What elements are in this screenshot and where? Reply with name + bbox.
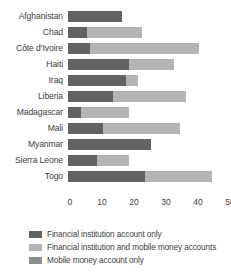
bar-segment[interactable] [68, 27, 87, 38]
category-label: Togo [0, 171, 66, 181]
bar-segment[interactable] [68, 43, 90, 54]
category-label: Mali [0, 123, 66, 133]
stacked-bar-chart: AfghanistanChadCôte d’IvoireHaitiIraqLib… [0, 0, 231, 275]
stacked-bar[interactable] [68, 123, 180, 134]
legend-label: Financial institution account only [47, 230, 161, 240]
bar-row: Chad [0, 24, 231, 40]
stacked-bar[interactable] [68, 155, 129, 166]
x-tick-label: 30 [161, 196, 171, 208]
bar-track [66, 104, 231, 120]
bar-segment[interactable] [68, 155, 97, 166]
bar-row: Afghanistan [0, 8, 231, 24]
bar-segment[interactable] [68, 123, 103, 134]
legend-swatch-icon [29, 231, 42, 238]
bar-row: Myanmar [0, 136, 231, 152]
category-label: Afghanistan [0, 11, 66, 21]
bar-segment[interactable] [68, 11, 122, 22]
category-label: Sierra Leone [0, 155, 66, 165]
bar-segment[interactable] [68, 91, 113, 102]
legend-swatch-icon [29, 244, 42, 251]
bar-track [66, 40, 231, 56]
legend-item[interactable]: Mobile money account only [29, 254, 229, 267]
category-label: Madagascar [0, 107, 66, 117]
bar-segment[interactable] [87, 27, 141, 38]
x-tick-label: 10 [97, 196, 107, 208]
bar-segment[interactable] [81, 107, 129, 118]
x-tick-label: 0 [68, 196, 73, 208]
category-label: Chad [0, 27, 66, 37]
stacked-bar[interactable] [68, 27, 142, 38]
legend-item[interactable]: Financial institution account only [29, 228, 229, 241]
bar-row: Liberia [0, 88, 231, 104]
bar-segment[interactable] [126, 75, 139, 86]
category-label: Myanmar [0, 139, 66, 149]
stacked-bar[interactable] [68, 171, 212, 182]
bar-track [66, 24, 231, 40]
bar-track [66, 152, 231, 168]
category-label: Iraq [0, 75, 66, 85]
bar-track [66, 72, 231, 88]
stacked-bar[interactable] [68, 107, 129, 118]
x-tick-label: 50 [225, 196, 231, 208]
legend-label: Mobile money account only [47, 256, 144, 266]
stacked-bar[interactable] [68, 11, 122, 22]
stacked-bar[interactable] [68, 75, 138, 86]
bar-row: Madagascar [0, 104, 231, 120]
bar-row: Haiti [0, 56, 231, 72]
bar-row: Mali [0, 120, 231, 136]
bar-segment[interactable] [68, 107, 81, 118]
bar-track [66, 168, 231, 184]
stacked-bar[interactable] [68, 43, 199, 54]
bar-segment[interactable] [145, 171, 212, 182]
bar-segment[interactable] [103, 123, 180, 134]
bar-row: Iraq [0, 72, 231, 88]
legend-item[interactable]: Financial institution and mobile money a… [29, 241, 229, 254]
bar-row: Togo [0, 168, 231, 184]
bar-segment[interactable] [68, 59, 129, 70]
bar-segment[interactable] [97, 155, 129, 166]
bar-segment[interactable] [129, 59, 174, 70]
bar-track [66, 8, 231, 24]
bar-segment[interactable] [90, 43, 199, 54]
bar-segment[interactable] [68, 75, 126, 86]
plot-area: AfghanistanChadCôte d’IvoireHaitiIraqLib… [0, 8, 231, 196]
stacked-bar[interactable] [68, 91, 186, 102]
category-label: Côte d’Ivoire [0, 43, 66, 53]
bar-segment[interactable] [68, 171, 145, 182]
stacked-bar[interactable] [68, 59, 174, 70]
legend-label: Financial institution and mobile money a… [47, 243, 216, 253]
category-label: Liberia [0, 91, 66, 101]
category-label: Haiti [0, 59, 66, 69]
bar-track [66, 56, 231, 72]
bar-segment[interactable] [113, 91, 187, 102]
chart-legend: Financial institution account onlyFinanc… [29, 228, 229, 267]
legend-swatch-icon [29, 257, 42, 264]
x-tick-label: 20 [129, 196, 139, 208]
x-axis: 01020304050 [0, 196, 231, 214]
bar-track [66, 136, 231, 152]
bar-row: Sierra Leone [0, 152, 231, 168]
bar-row: Côte d’Ivoire [0, 40, 231, 56]
x-tick-label: 40 [193, 196, 203, 208]
bar-track [66, 120, 231, 136]
stacked-bar[interactable] [68, 139, 151, 150]
bar-track [66, 88, 231, 104]
bar-segment[interactable] [68, 139, 151, 150]
